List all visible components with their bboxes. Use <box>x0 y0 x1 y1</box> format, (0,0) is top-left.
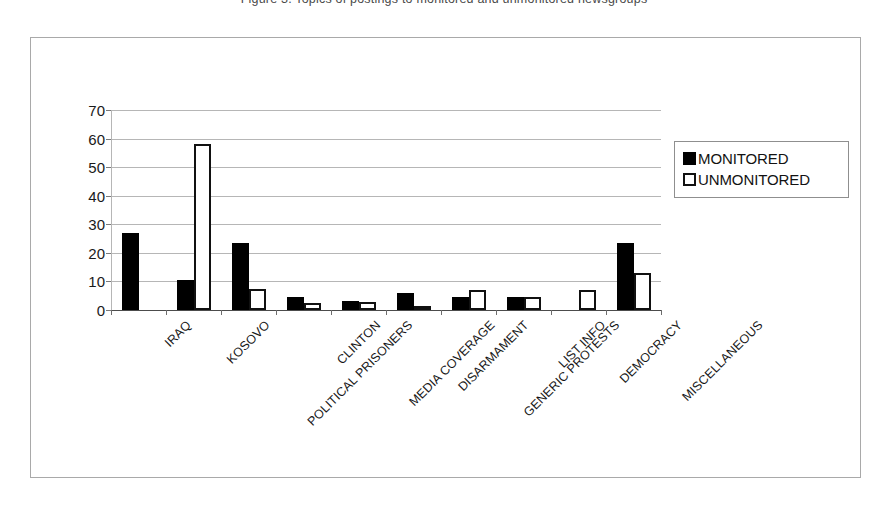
plot-area <box>111 110 661 310</box>
bar-unmonitored[interactable] <box>414 306 431 310</box>
bar-unmonitored[interactable] <box>304 303 321 310</box>
x-axis-label: MEDIA COVERAGE <box>406 318 497 409</box>
bar-monitored[interactable] <box>177 280 194 310</box>
bar-group <box>551 110 606 310</box>
x-axis-label: MISCELLANEOUS <box>679 318 765 404</box>
bar-group <box>386 110 441 310</box>
bar-group <box>276 110 331 310</box>
cut-off-caption-text: Figure 3. Topics of postings to monitore… <box>0 0 888 6</box>
chart-legend: MONITORED UNMONITORED <box>674 141 849 198</box>
legend-item-unmonitored[interactable]: UNMONITORED <box>683 169 841 190</box>
bar-group <box>221 110 276 310</box>
y-axis-tick-label: 40 <box>71 188 105 203</box>
bar-monitored[interactable] <box>507 297 524 310</box>
bar-unmonitored[interactable] <box>249 289 266 310</box>
bar-monitored[interactable] <box>232 243 249 310</box>
bar-group <box>166 110 221 310</box>
x-axis-label: CLINTON <box>334 318 383 367</box>
bar-unmonitored[interactable] <box>469 290 486 310</box>
chart-figure-frame: 010203040506070 IRAQKOSOVOPOLITICAL PRIS… <box>30 37 861 478</box>
bar-monitored[interactable] <box>452 297 469 310</box>
legend-item-label: UNMONITORED <box>698 172 810 187</box>
y-axis-tick-label: 70 <box>71 103 105 118</box>
y-axis-tick-label: 60 <box>71 131 105 146</box>
x-axis-label: DISARMAMENT <box>455 318 531 394</box>
bar-monitored[interactable] <box>122 233 139 310</box>
x-axis-label: IRAQ <box>162 318 194 350</box>
x-axis-label: POLITICAL PRISONERS <box>304 318 415 429</box>
x-axis-label: LIST INFO <box>555 318 608 371</box>
bar-unmonitored[interactable] <box>579 290 596 310</box>
y-axis-tick-labels: 010203040506070 <box>65 110 105 310</box>
bar-group <box>111 110 166 310</box>
bar-unmonitored[interactable] <box>524 297 541 310</box>
bar-monitored[interactable] <box>617 243 634 310</box>
bar-monitored[interactable] <box>287 297 304 310</box>
bar-monitored[interactable] <box>397 293 414 310</box>
x-axis-label: KOSOVO <box>224 318 273 367</box>
y-axis-tick-label: 30 <box>71 217 105 232</box>
x-axis-label: GENERIC PROTESTS <box>520 318 621 419</box>
x-axis-label: DEMOCRACY <box>617 318 685 386</box>
bar-group <box>331 110 386 310</box>
bar-unmonitored[interactable] <box>634 273 651 310</box>
y-axis-tick-label: 10 <box>71 274 105 289</box>
filled-square-icon <box>683 152 696 165</box>
bar-group <box>496 110 551 310</box>
y-axis-tick-label: 20 <box>71 245 105 260</box>
bar-unmonitored[interactable] <box>359 302 376 310</box>
bar-unmonitored[interactable] <box>194 144 211 310</box>
x-axis-line <box>111 310 662 311</box>
hollow-square-icon <box>683 173 696 186</box>
bar-group <box>606 110 661 310</box>
bar-monitored[interactable] <box>342 301 359 310</box>
y-axis-tick-mark <box>106 310 111 311</box>
bar-group <box>441 110 496 310</box>
legend-item-monitored[interactable]: MONITORED <box>683 148 841 169</box>
y-axis-tick-label: 50 <box>71 160 105 175</box>
y-axis-tick-label: 0 <box>71 303 105 318</box>
legend-item-label: MONITORED <box>698 151 789 166</box>
